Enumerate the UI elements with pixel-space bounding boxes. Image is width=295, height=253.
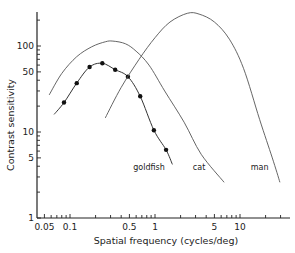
axes xyxy=(37,12,290,218)
x-axis-label: Spatial frequency (cycles/deg) xyxy=(94,235,238,246)
x-tick-label: 1 xyxy=(152,222,158,232)
y-tick-label: 5 xyxy=(28,153,34,163)
data-point xyxy=(87,65,91,69)
y-tick-label: 50 xyxy=(23,67,35,77)
man-curve xyxy=(105,13,280,183)
data-point xyxy=(152,128,156,132)
data-point xyxy=(113,68,117,72)
series-layer: goldfishcatman xyxy=(49,13,280,183)
data-point xyxy=(138,94,142,98)
y-tick-label: 100 xyxy=(17,41,34,51)
data-point xyxy=(75,81,79,85)
x-tick-label: 5 xyxy=(212,222,218,232)
data-point xyxy=(100,61,104,65)
data-point xyxy=(164,148,168,152)
chart: 0.050.10.51510 151050100 goldfishcatman … xyxy=(0,0,295,253)
goldfish-curve xyxy=(54,63,172,164)
y-axis-label: Contrast sensitivity xyxy=(5,79,16,171)
series-cat: cat xyxy=(49,41,224,182)
series-goldfish: goldfish xyxy=(54,61,172,172)
y-tick-label: 10 xyxy=(23,127,35,137)
cat-curve xyxy=(49,41,224,182)
cat-label: cat xyxy=(193,163,205,172)
x-tick-label: 0.05 xyxy=(34,222,54,232)
x-tick-label: 0.5 xyxy=(122,222,136,232)
series-man: man xyxy=(105,13,280,183)
x-tick-label: 0.1 xyxy=(63,222,77,232)
man-label: man xyxy=(251,163,269,172)
x-axis-ticks: 0.050.10.51510 xyxy=(34,214,280,232)
goldfish-label: goldfish xyxy=(133,163,165,172)
x-tick-label: 10 xyxy=(234,222,246,232)
data-point xyxy=(62,100,66,104)
y-tick-label: 1 xyxy=(28,213,34,223)
